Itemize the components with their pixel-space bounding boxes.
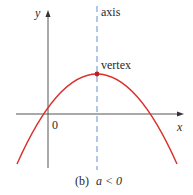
x-axis-arrow-icon: [177, 112, 184, 117]
parabola-diagram: [0, 0, 193, 195]
caption-prefix: (b): [75, 174, 89, 188]
caption-condition: a < 0: [96, 174, 122, 188]
y-axis-label: y: [35, 7, 40, 19]
axis-label: axis: [101, 6, 120, 18]
origin-label: 0: [52, 119, 58, 131]
y-axis-arrow-icon: [46, 10, 51, 17]
figure-caption: (b) a < 0: [75, 175, 122, 187]
x-axis-label: x: [177, 121, 182, 133]
vertex-point: [95, 72, 100, 77]
vertex-label: vertex: [101, 59, 131, 71]
